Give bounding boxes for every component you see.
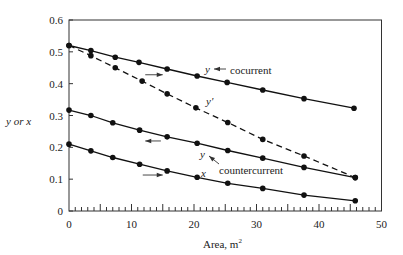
x-tick-label: 40 — [314, 218, 326, 230]
data-point — [164, 66, 170, 72]
data-point — [137, 127, 143, 133]
x-tick-label: 0 — [66, 218, 72, 230]
chart: 00.10.20.30.40.50.601020304050 y or x Ar… — [0, 0, 403, 255]
label-cocurrent-y: y — [204, 63, 210, 75]
data-point — [139, 78, 145, 84]
data-point — [112, 54, 118, 60]
data-point — [351, 105, 357, 111]
x-axis-label-superscript: 2 — [238, 237, 242, 245]
flow-arrow-icon-head — [157, 73, 163, 77]
data-point — [260, 155, 266, 161]
x-tick-label: 10 — [126, 218, 138, 230]
data-point — [301, 96, 307, 102]
x-axis-label-text: Area, m — [203, 238, 239, 250]
x-tick-label: 30 — [251, 218, 263, 230]
flow-arrow-icon-head — [157, 173, 163, 177]
data-point — [193, 105, 199, 111]
data-point — [88, 48, 94, 54]
data-point — [194, 73, 200, 79]
y-tick-label: 0.3 — [49, 110, 63, 122]
x-tick-label: 20 — [189, 218, 201, 230]
data-point — [225, 148, 231, 154]
data-point — [301, 165, 307, 171]
series-layer — [66, 43, 358, 204]
data-point — [260, 87, 266, 93]
data-point — [88, 53, 94, 59]
y-tick-label: 0.1 — [49, 173, 63, 185]
label-countercurrent-y: y — [199, 148, 205, 160]
data-point — [352, 198, 358, 204]
data-point — [194, 174, 200, 180]
label-countercurrent: countercurrent — [219, 164, 283, 176]
data-point — [225, 120, 231, 126]
cocurrent-pointer-arrow-icon-head — [214, 67, 220, 71]
data-point — [66, 43, 72, 49]
data-point — [66, 141, 72, 147]
data-point — [225, 181, 231, 187]
data-point — [352, 175, 358, 181]
data-point — [112, 65, 118, 71]
data-point — [260, 137, 266, 143]
data-point — [194, 140, 200, 146]
data-point — [136, 60, 142, 66]
data-point — [88, 113, 94, 119]
y-tick-label: 0.4 — [49, 78, 63, 90]
data-point — [301, 192, 307, 198]
flow-arrow-icon-head — [145, 139, 151, 143]
data-point — [66, 107, 72, 113]
y-tick-label: 0.5 — [49, 46, 63, 58]
data-point — [224, 80, 230, 86]
annotations-layer — [143, 67, 226, 177]
data-point — [164, 91, 170, 97]
label-cocurrent: cocurrent — [230, 64, 272, 76]
data-point — [137, 161, 143, 167]
data-point — [164, 168, 170, 174]
label-x: x — [200, 167, 206, 179]
x-axis-label: Area, m2 — [203, 237, 242, 250]
y-tick-label: 0.2 — [49, 141, 63, 153]
data-point — [110, 120, 116, 126]
y-axis-label: y or x — [5, 115, 31, 127]
x-tick-label: 50 — [376, 218, 388, 230]
data-point — [110, 155, 116, 161]
y-tick-label: 0.6 — [49, 14, 63, 26]
data-point — [301, 153, 307, 159]
axes: 00.10.20.30.40.50.601020304050 — [49, 14, 387, 230]
data-point — [88, 148, 94, 154]
label-yprime: y' — [205, 95, 214, 107]
y-tick-label: 0 — [58, 205, 64, 217]
series-line — [69, 144, 355, 201]
data-point — [260, 186, 266, 192]
data-point — [164, 134, 170, 140]
